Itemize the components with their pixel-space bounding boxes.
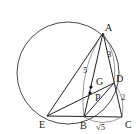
label-D: D	[116, 73, 123, 84]
length-AB: 5	[83, 65, 87, 75]
label-C: C	[125, 119, 132, 130]
label-E: E	[39, 119, 45, 130]
label-P: P	[95, 92, 101, 103]
segment-AE	[47, 33, 103, 116]
label-A: A	[105, 22, 113, 33]
segment-ED	[47, 83, 114, 116]
length-DC: 2	[121, 92, 125, 102]
label-G: G	[96, 76, 103, 87]
length-BC: √5	[96, 122, 105, 132]
geometry-figure: A E B C D G P 5 3 2 √5	[0, 0, 139, 134]
length-AD: 3	[107, 49, 111, 59]
label-B: B	[80, 120, 87, 131]
point-P	[88, 91, 91, 94]
segment-AB	[84, 33, 103, 117]
point-G	[89, 85, 92, 88]
